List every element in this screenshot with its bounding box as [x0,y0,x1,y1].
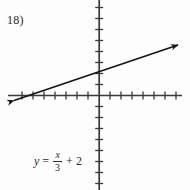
coordinate-plane-graph [0,0,190,190]
fraction-denominator: 3 [54,162,61,173]
equation-equals-sign: = [42,154,49,169]
fraction-x-over-3: x 3 [53,150,62,173]
equation-constant-term: + 2 [66,154,82,169]
worksheet-page: 18) [0,0,190,190]
fraction-numerator: x [54,150,60,161]
x-axis [8,92,182,100]
equation-lhs: y [34,154,39,169]
equation-label: y = x 3 + 2 [34,150,82,173]
